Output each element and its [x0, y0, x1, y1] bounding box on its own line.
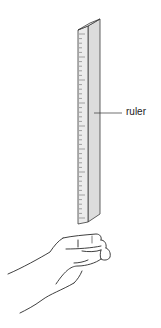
hand [8, 234, 110, 313]
diagram-canvas: ruler [0, 0, 161, 328]
ruler-drop-illustration [0, 0, 161, 328]
ruler-label: ruler [126, 107, 146, 117]
ruler [78, 19, 100, 224]
